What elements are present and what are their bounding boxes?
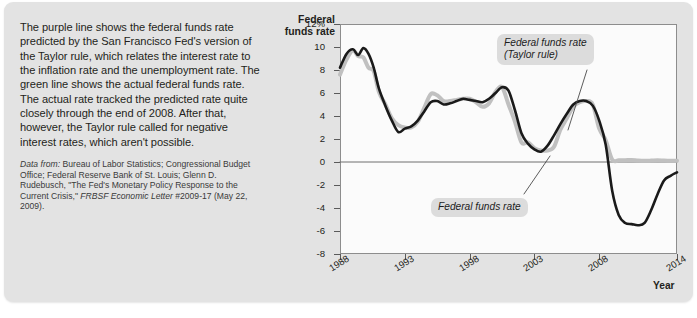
taylor-rule-callout-line1: Federal funds rate	[504, 37, 587, 48]
actual-rate-callout-line1: Federal funds rate	[438, 201, 521, 212]
caption-body: The purple line shows the federal funds …	[20, 20, 264, 149]
chart-container: Federal funds rate Year 12%1086420-2-4-6…	[269, 8, 689, 298]
caption-source: Data from: Bureau of Labor Statistics; C…	[20, 159, 264, 212]
series-line-1	[340, 50, 677, 161]
taylor-rule-callout-line2: (Taylor rule)	[504, 49, 558, 60]
actual-rate-callout: Federal funds rate	[431, 198, 528, 217]
taylor-rule-callout: Federal funds rate (Taylor rule)	[497, 34, 594, 65]
plot-lines	[269, 8, 689, 298]
source-italic-title: FRBSF Economic Letter	[80, 191, 173, 201]
source-prefix: Data from:	[20, 159, 60, 169]
figure-card: The purple line shows the federal funds …	[4, 2, 693, 302]
caption-column: The purple line shows the federal funds …	[20, 20, 264, 212]
